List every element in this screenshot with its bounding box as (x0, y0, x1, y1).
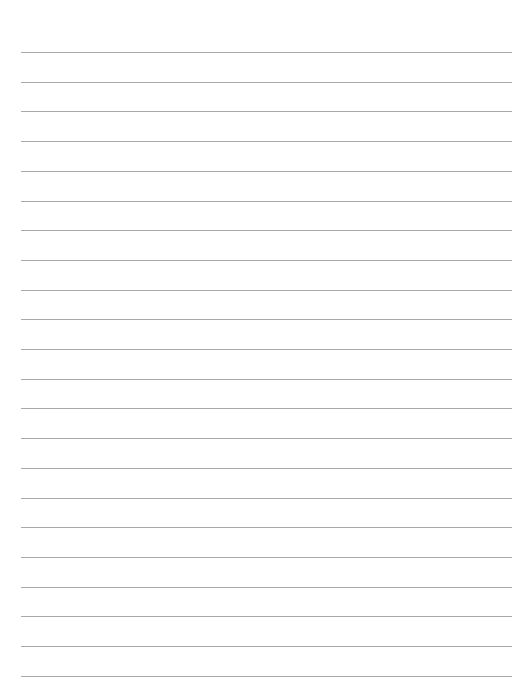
ruled-line (21, 201, 512, 202)
ruled-line (21, 290, 512, 291)
ruled-line (21, 82, 512, 83)
ruled-line (21, 616, 512, 617)
ruled-line (21, 260, 512, 261)
ruled-line (21, 379, 512, 380)
ruled-line (21, 587, 512, 588)
ruled-line (21, 468, 512, 469)
ruled-line (21, 230, 512, 231)
ruled-line (21, 349, 512, 350)
ruled-line (21, 52, 512, 53)
ruled-line (21, 498, 512, 499)
ruled-line (21, 438, 512, 439)
lined-paper-page (0, 0, 526, 697)
ruled-line (21, 527, 512, 528)
ruled-line (21, 111, 512, 112)
ruled-line (21, 676, 512, 677)
ruled-line (21, 646, 512, 647)
ruled-line (21, 141, 512, 142)
ruled-line (21, 408, 512, 409)
ruled-line (21, 171, 512, 172)
ruled-line (21, 319, 512, 320)
ruled-line (21, 557, 512, 558)
